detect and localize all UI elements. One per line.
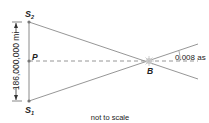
parallax-diagram: 186,000,000 mi S2 S1 P B 0.008 as not to… bbox=[0, 0, 209, 123]
point-s2 bbox=[27, 20, 30, 23]
sightline-s1 bbox=[29, 44, 198, 101]
angle-label: 0.008 as bbox=[175, 53, 206, 62]
sightline-s2 bbox=[29, 22, 198, 79]
label-p: P bbox=[32, 52, 38, 62]
arrowhead-down-icon bbox=[14, 95, 18, 100]
star-icon bbox=[144, 56, 154, 66]
caption: not to scale bbox=[91, 113, 129, 122]
point-p bbox=[27, 59, 30, 62]
label-b: B bbox=[147, 66, 153, 76]
label-s1: S1 bbox=[25, 105, 34, 116]
arrowhead-up-icon bbox=[14, 23, 18, 28]
label-s2: S2 bbox=[25, 9, 34, 20]
dimension-label: 186,000,000 mi bbox=[11, 32, 21, 91]
point-s1 bbox=[27, 99, 30, 102]
